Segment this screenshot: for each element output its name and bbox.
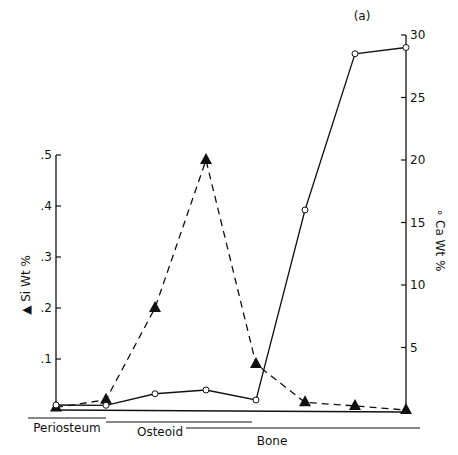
left-axis-title: ▲ Si Wt % bbox=[19, 255, 33, 315]
x-regions: PeriosteumOsteoidBone bbox=[28, 418, 420, 448]
circle-marker bbox=[253, 397, 259, 403]
triangle-marker bbox=[400, 403, 412, 414]
right-tick-label: 20 bbox=[410, 153, 425, 167]
left-tick-label: .4 bbox=[41, 199, 52, 213]
triangle-marker bbox=[149, 301, 161, 312]
right-ticks: 51015202530 bbox=[401, 28, 425, 355]
right-axis-title: ∘ Ca Wt % bbox=[433, 209, 447, 272]
series-line bbox=[56, 48, 406, 406]
axes bbox=[56, 35, 406, 412]
series-line bbox=[56, 160, 406, 410]
circle-marker bbox=[302, 207, 308, 213]
baseline bbox=[56, 410, 406, 412]
circle-marker bbox=[203, 387, 209, 393]
left-tick-label: .1 bbox=[41, 352, 52, 366]
right-tick-label: 25 bbox=[410, 91, 425, 105]
triangle-marker bbox=[299, 395, 311, 406]
left-tick-label: .3 bbox=[41, 250, 52, 264]
region-label: Periosteum bbox=[33, 421, 100, 435]
circle-marker bbox=[103, 402, 109, 408]
circle-marker bbox=[53, 402, 59, 408]
region-label: Bone bbox=[257, 434, 288, 448]
panel-label: (a) bbox=[354, 9, 371, 23]
circle-marker bbox=[403, 45, 409, 51]
circle-marker bbox=[152, 391, 158, 397]
left-ticks: .1.2.3.4.5 bbox=[41, 148, 61, 366]
right-tick-label: 15 bbox=[410, 216, 425, 230]
triangle-marker bbox=[200, 153, 212, 164]
triangle-marker bbox=[250, 357, 262, 368]
chart: .1.2.3.4.5 51015202530 PeriosteumOsteoid… bbox=[0, 0, 458, 455]
series-markers bbox=[50, 45, 412, 415]
right-tick-label: 10 bbox=[410, 278, 425, 292]
series-lines bbox=[56, 48, 406, 411]
right-tick-label: 5 bbox=[410, 341, 418, 355]
circle-marker bbox=[352, 51, 358, 57]
region-label: Osteoid bbox=[137, 425, 183, 439]
left-tick-label: .2 bbox=[41, 301, 52, 315]
right-tick-label: 30 bbox=[410, 28, 425, 42]
triangle-marker bbox=[349, 399, 361, 410]
left-tick-label: .5 bbox=[41, 148, 52, 162]
